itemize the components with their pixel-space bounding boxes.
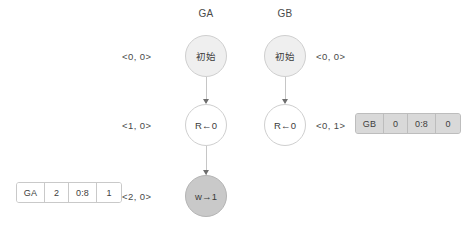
clock-label-ga-read: <1, 0>: [122, 120, 151, 131]
message-record-gb-cell-2: 0:8: [408, 114, 436, 133]
message-record-ga[interactable]: GA 2 0:8 1: [16, 182, 122, 203]
message-record-gb-cell-0: GB: [356, 114, 384, 133]
column-title-ga: GA: [176, 8, 236, 19]
column-title-gb: GB: [255, 8, 315, 19]
node-ga-read[interactable]: R←0: [185, 104, 227, 146]
node-ga-write[interactable]: w→1: [185, 175, 227, 217]
node-gb-read-label: R←0: [274, 120, 296, 131]
clock-label-gb-initial: <0, 0>: [316, 51, 345, 62]
node-ga-read-label: R←0: [195, 120, 217, 131]
node-ga-write-label: w→1: [195, 191, 217, 202]
message-record-gb-cell-1: 0: [384, 114, 408, 133]
message-record-gb-cell-3: 0: [436, 114, 460, 133]
message-record-ga-cell-3: 1: [97, 183, 121, 202]
node-gb-initial-label: 初始: [275, 49, 295, 63]
node-ga-initial-label: 初始: [196, 49, 216, 63]
message-record-ga-cell-2: 0:8: [69, 183, 97, 202]
diagram-canvas: GA GB 初始 R←0 w→1 <0, 0> <1, 0> <2, 0> 初始…: [0, 0, 470, 226]
node-gb-initial[interactable]: 初始: [264, 35, 306, 77]
node-gb-read[interactable]: R←0: [264, 104, 306, 146]
clock-label-ga-write: <2, 0>: [122, 191, 151, 202]
message-record-ga-cell-0: GA: [17, 183, 45, 202]
clock-label-gb-read: <0, 1>: [316, 120, 345, 131]
clock-label-ga-initial: <0, 0>: [122, 51, 151, 62]
message-record-ga-cell-1: 2: [45, 183, 69, 202]
node-ga-initial[interactable]: 初始: [185, 35, 227, 77]
message-record-gb[interactable]: GB 0 0:8 0: [355, 113, 461, 134]
